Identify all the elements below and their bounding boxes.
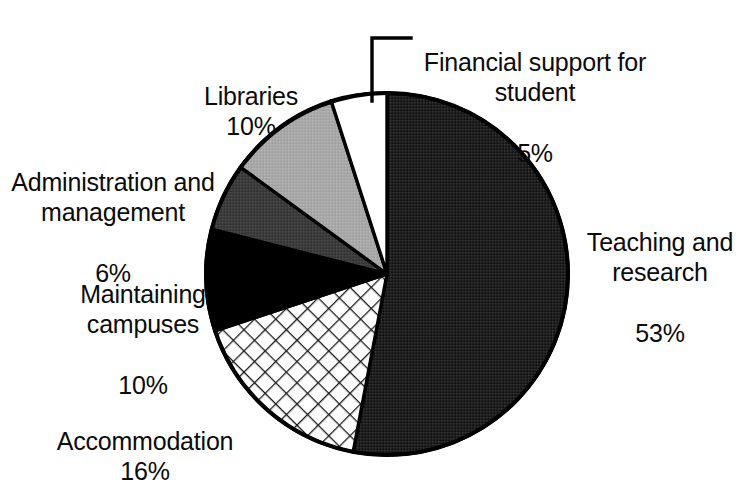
slice-label-text-line2: campuses bbox=[52, 309, 234, 340]
slice-label-text-line2: research bbox=[584, 257, 736, 288]
slice-label-text: Teaching and bbox=[587, 228, 733, 256]
slice-label-text: Accommodation bbox=[57, 427, 234, 455]
slice-label-accommodation: Accommodation 16% bbox=[26, 395, 264, 489]
slice-label-percent: 5% bbox=[400, 138, 670, 169]
slice-label-text: Libraries bbox=[204, 82, 298, 110]
slice-label-teaching-and-research: Teaching and research 53% bbox=[584, 196, 736, 379]
slice-label-percent: 16% bbox=[26, 456, 264, 487]
slice-label-text-line2: student bbox=[400, 77, 670, 108]
slice-label-text: Maintaining bbox=[80, 280, 206, 308]
pie-chart-figure: Financial support for student 5% Teachin… bbox=[0, 0, 738, 489]
slice-label-percent: 53% bbox=[584, 318, 736, 349]
slice-label-text: Financial support for bbox=[424, 48, 646, 76]
slice-label-financial-support: Financial support for student 5% bbox=[400, 16, 670, 199]
slice-label-text-line2: management bbox=[2, 197, 224, 228]
slice-label-text: Administration and bbox=[11, 168, 214, 196]
